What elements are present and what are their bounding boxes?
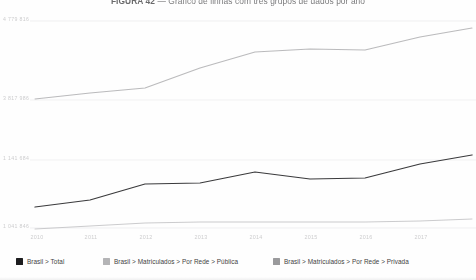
legend-label-privada: Brasil > Matriculados > Por Rede > Priva… [284,258,409,265]
x-tick-label-2012: 2012 [139,234,152,240]
x-tick-label-2014: 2014 [249,234,262,240]
x-tick-label-2017: 2017 [414,234,427,240]
legend-item-publica[interactable]: Brasil > Matriculados > Por Rede > Públi… [103,258,238,265]
figure-dash: — [157,0,165,6]
series-line-total [35,155,472,207]
line-chart-plot: 4 779 816 3 817 986 1 141 684 1 041 846 [0,12,476,234]
legend-label-publica: Brasil > Matriculados > Por Rede > Públi… [114,258,238,265]
legend-item-privada[interactable]: Brasil > Matriculados > Por Rede > Priva… [273,258,409,265]
x-tick-label-2011: 2011 [85,234,98,240]
x-tick-label-2015: 2015 [304,234,317,240]
scanned-page: FIGURA 42 — Gráfico de linhas com três g… [0,0,476,280]
legend-item-total[interactable]: Brasil > Total [16,258,64,265]
figure-label: FIGURA 42 [111,0,155,6]
x-tick-label-2016: 2016 [359,234,372,240]
legend-swatch-total-icon [16,258,23,265]
legend-swatch-publica-icon [103,258,110,265]
x-tick-label-2013: 2013 [194,234,207,240]
y-tick-label-1: 3 817 986 [3,95,29,101]
y-tick-label-0: 4 779 816 [3,16,29,22]
x-axis: 2010 2011 2012 2013 2014 2015 2016 2017 [0,234,476,246]
legend-swatch-privada-icon [273,258,280,265]
figure-caption-text: Gráfico de linhas com três grupos de dad… [168,0,365,6]
figure-caption: FIGURA 42 — Gráfico de linhas com três g… [0,0,476,6]
series-line-privada [35,219,472,229]
chart-legend: Brasil > Total Brasil > Matriculados > P… [0,258,476,274]
y-tick-label-3: 1 041 846 [3,223,29,229]
legend-label-total: Brasil > Total [27,258,64,265]
chart-svg [0,12,476,234]
series-line-publica [35,28,472,99]
y-tick-label-2: 1 141 684 [3,155,29,161]
x-tick-label-2010: 2010 [30,234,43,240]
